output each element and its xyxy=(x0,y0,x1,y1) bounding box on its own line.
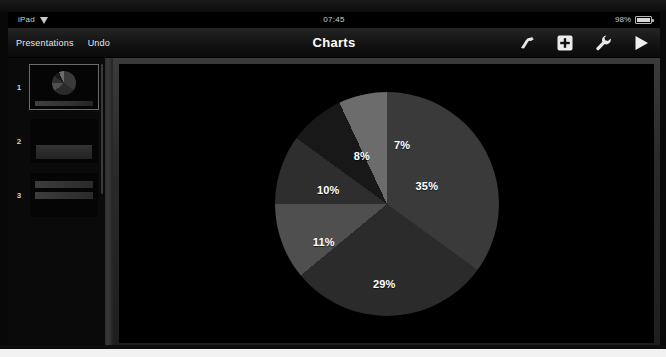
thumb-band-mid-3 xyxy=(35,192,93,199)
sidebar-scrollbar[interactable] xyxy=(101,64,103,194)
device-bezel-left xyxy=(0,0,8,357)
pie-label-2: 29% xyxy=(373,278,396,290)
device-bezel-top xyxy=(0,0,666,12)
slide-thumbnail-1[interactable]: 1 xyxy=(8,64,105,110)
thumb-caption-bar-1 xyxy=(35,101,93,106)
pie-label-5: 8% xyxy=(354,150,370,162)
add-icon[interactable] xyxy=(556,34,574,52)
animate-icon[interactable] xyxy=(518,34,536,52)
slide-canvas[interactable]: 35% 29% 11% 10% 8% 7% xyxy=(119,64,654,343)
ipad-keynote-app: iPad 07:45 98% Presentations Undo Charts xyxy=(0,0,666,357)
device-bezel-right xyxy=(660,0,666,357)
device-bezel-bottom xyxy=(0,349,666,357)
tools-wrench-icon[interactable] xyxy=(594,34,612,52)
app-toolbar: Presentations Undo Charts xyxy=(8,28,660,58)
battery-percent-label: 98% xyxy=(615,12,631,28)
slide-thumb-canvas-1[interactable] xyxy=(30,65,98,109)
pie-label-4: 10% xyxy=(317,184,340,196)
pie-label-3: 11% xyxy=(313,236,335,248)
thumb-content-block-2 xyxy=(36,145,92,159)
pie-label-6: 7% xyxy=(394,139,410,151)
battery-fill xyxy=(637,18,650,22)
status-bar: iPad 07:45 98% xyxy=(8,12,660,28)
slide-number-1: 1 xyxy=(8,83,30,92)
slide-thumb-canvas-2[interactable] xyxy=(30,119,98,163)
slide-thumb-canvas-3[interactable] xyxy=(30,173,98,217)
toolbar-right-group xyxy=(518,28,650,58)
status-right-group: 98% xyxy=(615,12,652,28)
thumb-pie-chart-icon xyxy=(52,71,76,95)
pie-chart[interactable]: 35% 29% 11% 10% 8% 7% xyxy=(275,92,499,316)
slide-thumbnail-3[interactable]: 3 xyxy=(8,172,105,218)
status-clock: 07:45 xyxy=(8,12,660,28)
battery-icon xyxy=(635,16,652,24)
slide-canvas-frame: 35% 29% 11% 10% 8% 7% xyxy=(113,58,660,349)
slide-thumbnail-2[interactable]: 2 xyxy=(8,118,105,164)
slide-navigator-sidebar[interactable]: 1 2 3 xyxy=(8,58,105,349)
slide-number-3: 3 xyxy=(8,191,30,200)
pie-label-1: 35% xyxy=(416,180,439,192)
slide-number-2: 2 xyxy=(8,137,30,146)
play-icon[interactable] xyxy=(632,34,650,52)
thumb-band-top-3 xyxy=(35,181,93,188)
sidebar-divider xyxy=(105,58,113,349)
